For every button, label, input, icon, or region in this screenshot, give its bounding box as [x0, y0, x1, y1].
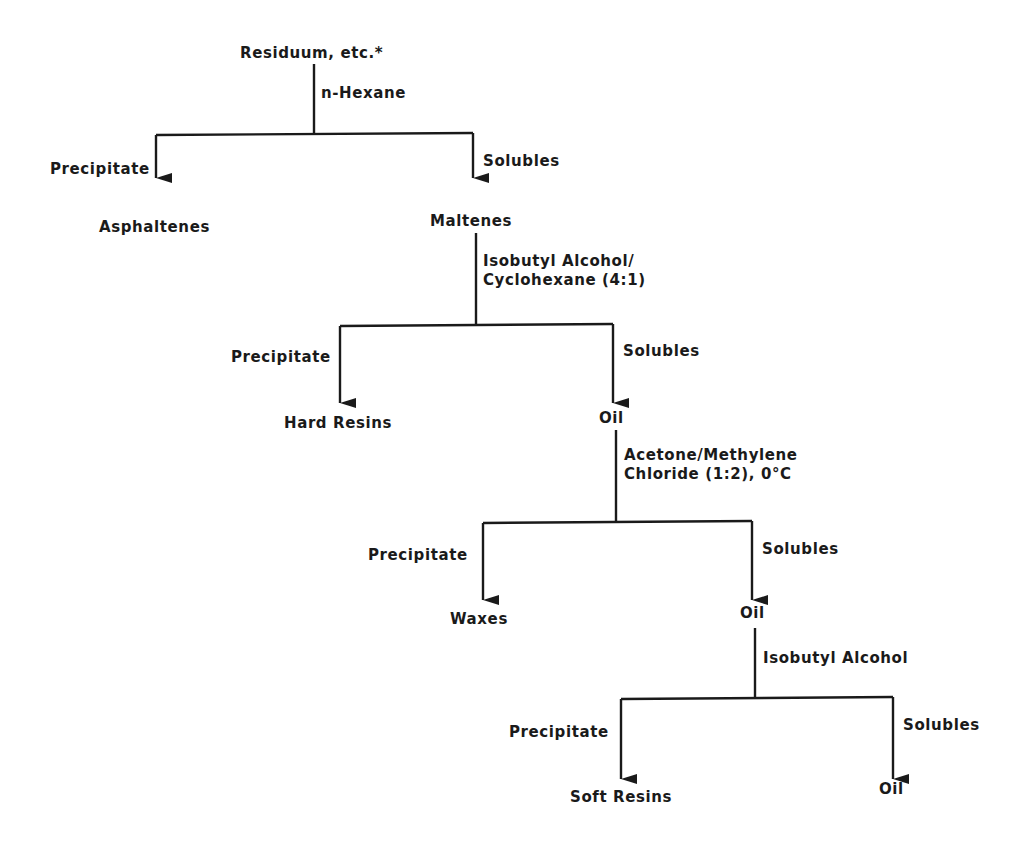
- solubles-label-1: Solubles: [483, 152, 560, 171]
- root-node-residuum: Residuum, etc.*: [240, 44, 383, 63]
- product-soft-resins: Soft Resins: [570, 788, 672, 807]
- precipitate-label-2: Precipitate: [231, 348, 331, 367]
- solvent-label-isobutyl-alcohol: Isobutyl Alcohol: [763, 649, 908, 668]
- product-maltenes: Maltenes: [430, 212, 512, 231]
- solubles-label-2: Solubles: [623, 342, 700, 361]
- solvent-label-isobutyl-cyclohexane: Isobutyl Alcohol/ Cyclohexane (4:1): [483, 252, 646, 290]
- fractionation-diagram: Residuum, etc.* n-Hexane Precipitate Asp…: [0, 0, 1026, 856]
- product-asphaltenes: Asphaltenes: [99, 218, 210, 237]
- product-hard-resins: Hard Resins: [284, 414, 392, 433]
- solubles-label-3: Solubles: [762, 540, 839, 559]
- product-oil-2: Oil: [740, 604, 765, 623]
- branch-line-3: [483, 521, 752, 523]
- precipitate-label-3: Precipitate: [368, 546, 468, 565]
- branch-line-4: [621, 697, 893, 699]
- precipitate-label-4: Precipitate: [509, 723, 609, 742]
- solvent-label-n-hexane: n-Hexane: [321, 84, 406, 103]
- product-waxes: Waxes: [450, 610, 508, 629]
- branch-line-2: [340, 324, 613, 326]
- branch-line-1: [156, 133, 473, 135]
- solubles-label-4: Solubles: [903, 716, 980, 735]
- product-oil-3: Oil: [879, 780, 904, 799]
- product-oil-1: Oil: [599, 409, 624, 428]
- solvent-label-acetone-methylene-chloride: Acetone/Methylene Chloride (1:2), 0°C: [624, 446, 798, 484]
- precipitate-label-1: Precipitate: [50, 160, 150, 179]
